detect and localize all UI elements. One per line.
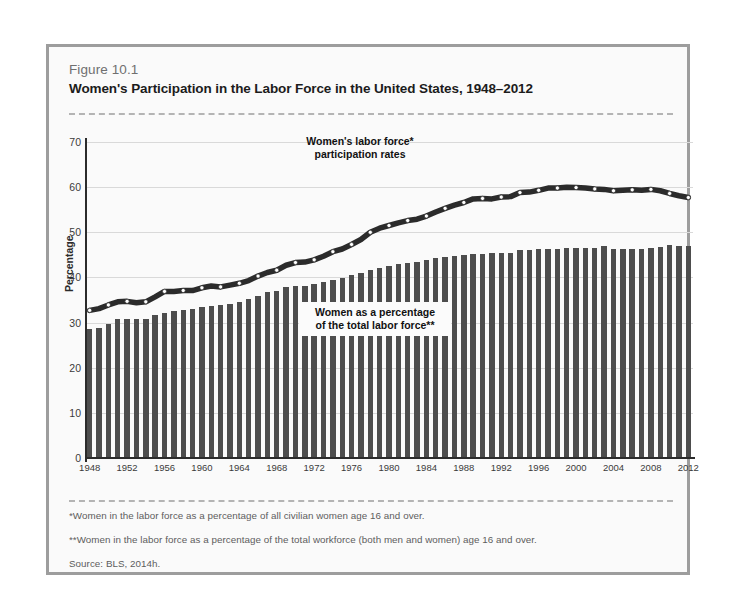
line-marker	[499, 195, 503, 199]
line-path	[90, 187, 689, 310]
y-axis-tick-label: 20	[41, 362, 81, 374]
line-marker	[181, 288, 185, 292]
x-axis-tick-label: 1976	[341, 462, 362, 473]
line-marker	[424, 214, 428, 218]
figure-page: Figure 10.1 Women's Participation in the…	[0, 0, 736, 605]
plot-inner: 0102030405060701948195219561960196419681…	[85, 142, 693, 458]
annotation-bar-l2: of the total labor force**	[304, 319, 446, 332]
chart-area: 0102030405060701948195219561960196419681…	[49, 47, 693, 578]
annotation-line-series: Women's labor force* participation rates	[285, 135, 435, 161]
annotation-line-l1: Women's labor force*	[285, 135, 435, 148]
line-marker	[518, 190, 522, 194]
line-marker	[649, 187, 653, 191]
line-marker	[368, 230, 372, 234]
x-axis-tick-label: 1964	[229, 462, 250, 473]
x-axis	[85, 457, 695, 459]
x-axis-tick-label: 1988	[453, 462, 474, 473]
line-marker	[555, 186, 559, 190]
line-marker	[331, 250, 335, 254]
x-axis-tick-label: 1948	[79, 462, 100, 473]
x-axis-tick-label: 1956	[154, 462, 175, 473]
line-marker	[219, 285, 223, 289]
line-marker	[574, 185, 578, 189]
x-axis-tick-label: 1992	[491, 462, 512, 473]
line-marker	[406, 218, 410, 222]
line-marker	[237, 281, 241, 285]
note-asterisk: *Women in the labor force as a percentag…	[69, 510, 675, 521]
annotation-line-l2: participation rates	[285, 148, 435, 161]
line-marker	[144, 300, 148, 304]
y-axis-tick-label: 70	[41, 136, 81, 148]
y-axis-label: Percentage	[63, 235, 75, 292]
figure-notes: *Women in the labor force as a percentag…	[69, 510, 675, 569]
x-axis-tick-label: 2000	[565, 462, 586, 473]
line-marker	[125, 299, 129, 303]
x-axis-tick-label: 2008	[640, 462, 661, 473]
line-marker	[480, 196, 484, 200]
line-marker	[630, 188, 634, 192]
line-marker	[387, 223, 391, 227]
x-axis-tick-label: 1952	[117, 462, 138, 473]
line-marker	[686, 195, 690, 199]
x-axis-tick-label: 1996	[528, 462, 549, 473]
figure-panel: Figure 10.1 Women's Participation in the…	[46, 44, 690, 575]
y-axis	[85, 138, 87, 462]
x-axis-tick-label: 1968	[266, 462, 287, 473]
x-axis-tick-label: 1960	[191, 462, 212, 473]
line-marker	[293, 260, 297, 264]
line-marker	[537, 188, 541, 192]
y-axis-tick-label: 40	[41, 271, 81, 283]
line-marker	[349, 242, 353, 246]
line-marker	[443, 206, 447, 210]
x-axis-tick-label: 2012	[678, 462, 699, 473]
line-marker	[162, 289, 166, 293]
line-marker	[668, 191, 672, 195]
y-axis-tick-label: 30	[41, 317, 81, 329]
line-marker	[275, 268, 279, 272]
y-axis-tick-label: 50	[41, 226, 81, 238]
note-source: Source: BLS, 2014h.	[69, 558, 675, 569]
divider-bottom	[69, 500, 673, 502]
line-marker	[256, 274, 260, 278]
y-axis-tick-label: 0	[41, 452, 81, 464]
line-marker	[88, 308, 92, 312]
y-axis-tick-label: 10	[41, 407, 81, 419]
annotation-bar-l1: Women as a percentage	[304, 306, 446, 319]
line-marker	[106, 303, 110, 307]
line-marker	[593, 187, 597, 191]
plot-region: 0102030405060701948195219561960196419681…	[85, 142, 693, 458]
line-series	[85, 142, 693, 458]
line-marker	[312, 258, 316, 262]
x-axis-tick-label: 1980	[378, 462, 399, 473]
line-marker	[462, 200, 466, 204]
y-axis-tick-label: 60	[41, 181, 81, 193]
note-double-asterisk: **Women in the labor force as a percenta…	[69, 534, 675, 545]
x-axis-tick-label: 1984	[416, 462, 437, 473]
annotation-bar-series: Women as a percentage of the total labor…	[299, 302, 451, 336]
x-axis-tick-label: 2004	[603, 462, 624, 473]
line-marker	[611, 189, 615, 193]
line-marker	[200, 286, 204, 290]
x-axis-tick-label: 1972	[304, 462, 325, 473]
